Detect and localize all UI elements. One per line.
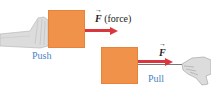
push-force-arrow-head xyxy=(110,27,118,35)
pull-force-label: F xyxy=(159,47,166,58)
push-pull-diagram: F (force) Push F Pull xyxy=(0,0,211,94)
pull-label: Pull xyxy=(148,73,164,84)
push-block xyxy=(48,10,85,48)
pull-force-arrow-head xyxy=(165,58,173,66)
push-label: Push xyxy=(32,50,51,61)
force-vector-symbol: F xyxy=(159,47,166,58)
push-force-arrow-shaft xyxy=(85,29,111,32)
pulling-hand-icon xyxy=(180,54,211,86)
pull-block xyxy=(101,47,138,84)
pull-force-arrow-shaft xyxy=(138,60,166,63)
force-note: (force) xyxy=(104,13,131,24)
push-force-label: F (force) xyxy=(95,13,131,24)
force-vector-symbol: F xyxy=(95,13,102,24)
pushing-hand-icon xyxy=(0,14,50,50)
pull-string xyxy=(138,64,184,65)
